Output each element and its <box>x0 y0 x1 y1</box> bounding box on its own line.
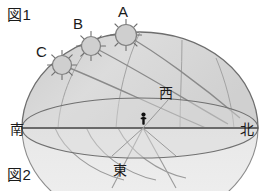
sun-c <box>48 51 77 80</box>
sun-b <box>77 32 106 61</box>
sun-a <box>111 20 142 51</box>
celestial-sphere-diagram <box>0 0 265 191</box>
direction-label-east: 東 <box>113 163 127 177</box>
sun-label-c: C <box>36 44 47 59</box>
figure-1-label: 図1 <box>7 7 31 22</box>
figure-2-label: 図2 <box>7 167 31 182</box>
direction-label-west: 西 <box>159 86 173 100</box>
sun-label-a: A <box>118 4 128 19</box>
sun-label-b: B <box>73 16 83 31</box>
direction-label-south: 南 <box>10 122 24 136</box>
direction-label-north: 北 <box>240 122 254 136</box>
figure-canvas: 図1 図2 A B C 南 北 西 東 <box>0 0 265 191</box>
